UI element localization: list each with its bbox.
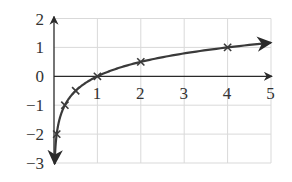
y-tick-label: −1 [26, 96, 44, 115]
y-tick-label: 2 [36, 10, 45, 29]
y-tick-label: −3 [26, 154, 44, 173]
grid-lines [54, 19, 271, 164]
x-tick-label: 4 [223, 84, 232, 103]
x-tick-label: 1 [93, 84, 102, 103]
data-series-curve [55, 43, 271, 164]
x-tick-label: 5 [266, 84, 275, 103]
log-chart: 12345 210−1−2−3 [0, 0, 292, 182]
axes [54, 17, 272, 162]
y-tick-label: 1 [36, 38, 45, 57]
x-marker-icon [72, 87, 79, 94]
y-tick-label: −2 [26, 125, 44, 144]
log-curve [55, 43, 271, 164]
y-tick-label: 0 [36, 67, 45, 86]
x-tick-label: 3 [179, 84, 188, 103]
y-axis-tick-labels: 210−1−2−3 [26, 10, 44, 174]
x-axis-tick-labels: 12345 [93, 84, 275, 103]
x-tick-label: 2 [136, 84, 145, 103]
